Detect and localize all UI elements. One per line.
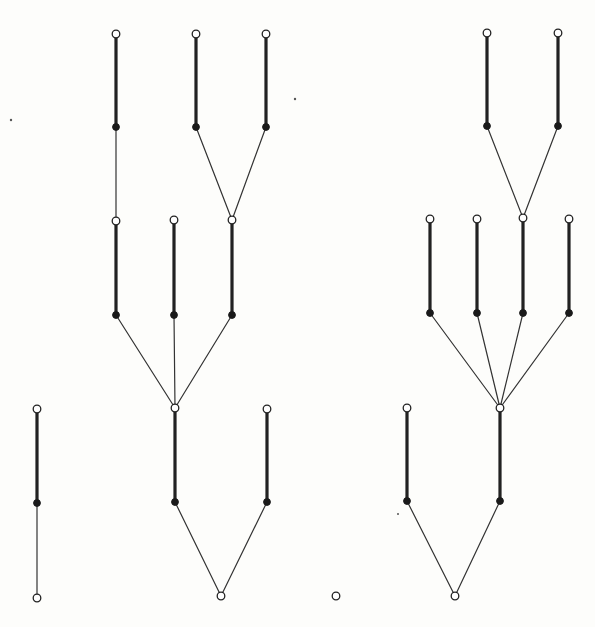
thin-edge-L4-L9 bbox=[196, 127, 232, 220]
filled-vertex-L16 bbox=[264, 499, 271, 506]
open-vertex-L15 bbox=[263, 405, 271, 413]
filled-vertex-R4 bbox=[555, 123, 562, 130]
filled-vertex-R8 bbox=[474, 310, 481, 317]
open-vertex-R13 bbox=[496, 404, 504, 412]
speck bbox=[10, 119, 12, 121]
filled-vertex-L4 bbox=[193, 124, 200, 131]
thin-edge-R12-R13 bbox=[500, 313, 569, 408]
filled-vertex-L14 bbox=[172, 499, 179, 506]
thin-edge-R4-R9 bbox=[523, 126, 558, 218]
thin-edge-R2-R9 bbox=[487, 126, 523, 218]
thin-edge-L10-L13 bbox=[175, 315, 232, 408]
open-vertex-R11 bbox=[565, 215, 573, 223]
open-vertex-L11 bbox=[170, 216, 178, 224]
speck bbox=[397, 513, 399, 515]
open-vertex-R15 bbox=[403, 404, 411, 412]
open-vertex-L17 bbox=[217, 592, 225, 600]
filled-vertex-R10 bbox=[520, 310, 527, 317]
filled-vertex-P2 bbox=[34, 500, 41, 507]
open-vertex-R17 bbox=[451, 592, 459, 600]
open-vertex-P1 bbox=[33, 405, 41, 413]
open-vertex-R1 bbox=[483, 29, 491, 37]
speck bbox=[294, 98, 296, 100]
open-vertex-L3 bbox=[192, 30, 200, 38]
filled-vertex-L10 bbox=[229, 312, 236, 319]
open-vertex-L5 bbox=[112, 217, 120, 225]
filled-vertex-L8 bbox=[263, 124, 270, 131]
open-vertex-I1 bbox=[332, 592, 340, 600]
filled-vertex-R12 bbox=[566, 310, 573, 317]
thin-edge-R10-R13 bbox=[500, 313, 523, 408]
thin-edge-L6-L13 bbox=[116, 315, 175, 408]
tree-diagram bbox=[0, 0, 595, 627]
filled-vertex-R6 bbox=[427, 310, 434, 317]
filled-vertex-L12 bbox=[171, 312, 178, 319]
filled-vertex-L6 bbox=[113, 312, 120, 319]
scan-specks bbox=[10, 98, 399, 515]
open-vertex-L13 bbox=[171, 404, 179, 412]
open-vertex-P3 bbox=[33, 594, 41, 602]
open-vertex-R3 bbox=[554, 29, 562, 37]
open-vertex-R7 bbox=[473, 215, 481, 223]
thin-edge-L14-L17 bbox=[175, 502, 221, 596]
open-vertex-L7 bbox=[262, 30, 270, 38]
open-vertex-R5 bbox=[426, 215, 434, 223]
thin-edge-R14-R17 bbox=[455, 501, 500, 596]
filled-vertex-R2 bbox=[484, 123, 491, 130]
thin-edge-L8-L9 bbox=[232, 127, 266, 220]
filled-vertex-L2 bbox=[113, 124, 120, 131]
open-vertex-L1 bbox=[112, 30, 120, 38]
thin-edge-R6-R13 bbox=[430, 313, 500, 408]
filled-vertex-R14 bbox=[497, 498, 504, 505]
open-vertex-R9 bbox=[519, 214, 527, 222]
thin-edge-L16-L17 bbox=[221, 502, 267, 596]
thin-edge-R16-R17 bbox=[407, 501, 455, 596]
filled-vertex-R16 bbox=[404, 498, 411, 505]
open-vertex-L9 bbox=[228, 216, 236, 224]
nodes-layer bbox=[33, 29, 573, 602]
thin-edge-L12-L13 bbox=[174, 315, 175, 408]
thin-edge-R8-R13 bbox=[477, 313, 500, 408]
